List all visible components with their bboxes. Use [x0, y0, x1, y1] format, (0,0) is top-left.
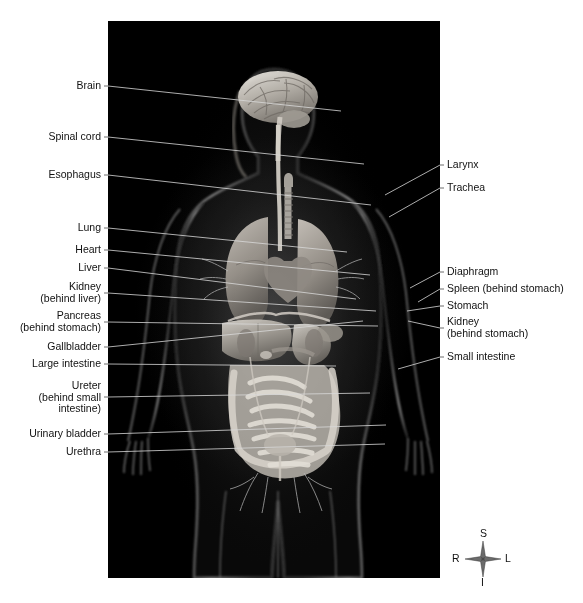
label-gallbladder: Gallbladder	[47, 341, 101, 353]
label-kidney-right: Kidney (behind stomach)	[447, 316, 528, 339]
intestines-organ	[228, 365, 340, 478]
label-stomach: Stomach	[447, 300, 488, 312]
liver-organ	[222, 320, 292, 362]
label-liver: Liver	[78, 262, 101, 274]
compass-left-label: L	[505, 553, 511, 564]
anatomy-figure: BrainSpinal cordEsophagusLungHeartLiverK…	[0, 0, 583, 603]
gallbladder-organ	[260, 351, 272, 359]
label-pancreas: Pancreas (behind stomach)	[20, 310, 101, 333]
label-urethra: Urethra	[66, 446, 101, 458]
spinal-cord-organ	[278, 125, 280, 251]
orientation-compass: S I R L	[452, 528, 514, 590]
anatomy-image-panel	[108, 21, 440, 578]
compass-star-icon	[464, 540, 502, 578]
compass-superior-label: S	[480, 528, 487, 539]
label-larynx: Larynx	[447, 159, 479, 171]
label-heart: Heart	[75, 244, 101, 256]
label-spleen: Spleen (behind stomach)	[447, 283, 564, 295]
kidney-left-organ	[237, 329, 255, 357]
label-trachea: Trachea	[447, 182, 485, 194]
label-urinary-bladder: Urinary bladder	[29, 428, 101, 440]
compass-inferior-label: I	[481, 577, 484, 588]
compass-right-label: R	[452, 553, 460, 564]
label-lung: Lung	[78, 222, 101, 234]
label-small-intestine: Small intestine	[447, 351, 515, 363]
label-kidney-left: Kidney (behind liver)	[40, 281, 101, 304]
label-brain: Brain	[76, 80, 101, 92]
label-large-intestine: Large intestine	[32, 358, 101, 370]
label-diaphragm: Diaphragm	[447, 266, 498, 278]
label-spinal-cord: Spinal cord	[48, 131, 101, 143]
label-esophagus: Esophagus	[48, 169, 101, 181]
human-body-illustration	[108, 21, 440, 578]
label-ureter: Ureter (behind small intestine)	[39, 380, 101, 415]
